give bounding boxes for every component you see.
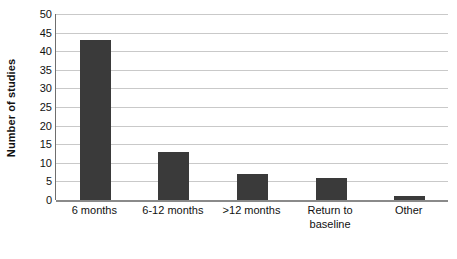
y-axis-tick-label: 20 [40,120,52,131]
x-axis-tick-label: >12 months [223,204,281,218]
bar [237,174,268,200]
x-axis-tick-label: 6-12 months [142,204,203,218]
y-axis-tick-label: 15 [40,139,52,150]
bar [316,178,347,200]
bar-chart: Number of studies 05101520253035404550 6… [0,0,457,259]
y-axis-tick-label: 35 [40,64,52,75]
y-axis-tick-label: 50 [40,9,52,20]
bars-layer [56,14,448,200]
x-axis-tick-label: Return to baseline [307,204,352,232]
y-axis-tick-label: 40 [40,46,52,57]
y-axis-tick-label: 25 [40,102,52,113]
x-axis-tick-labels: 6 months6-12 months>12 monthsReturn to b… [55,204,448,250]
y-axis-title-label: Number of studies [5,58,17,156]
x-axis-tick-label: 6 months [72,204,117,218]
x-axis-tick-label: Other [395,204,423,218]
y-axis-tick-label: 5 [46,176,52,187]
bar [394,196,425,200]
plot-area [55,14,448,200]
gridline [56,200,448,202]
y-axis-title: Number of studies [0,0,22,215]
bar [80,40,111,200]
bar [158,152,189,200]
y-axis-tick-label: 10 [40,157,52,168]
y-axis-tick-label: 45 [40,27,52,38]
y-axis-tick-label: 0 [46,195,52,206]
y-axis-tick-labels: 05101520253035404550 [24,14,52,200]
y-axis-tick-label: 30 [40,83,52,94]
